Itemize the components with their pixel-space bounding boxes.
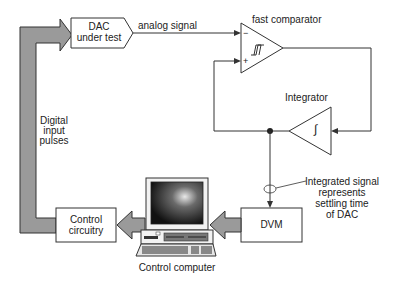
analog-signal-label: analog signal — [138, 20, 197, 31]
annotation-line2: represents — [302, 187, 382, 198]
annotation-line3: settling time — [302, 198, 382, 209]
comparator-plus-sign: + — [243, 56, 248, 67]
computer-icon — [136, 178, 216, 256]
arrowhead-icon — [267, 201, 273, 208]
integrator-triangle — [289, 107, 331, 155]
arrowhead-icon — [234, 30, 241, 36]
comparator-minus-sign: − — [243, 28, 248, 39]
dvm-to-computer-arrow — [210, 211, 241, 239]
annotation-line1: Integrated signal — [302, 176, 382, 187]
annotation-line4: of DAC — [302, 209, 382, 220]
control-circuitry-line1: Control — [56, 214, 116, 225]
dac-label-line2: under test — [71, 32, 127, 43]
arrowhead-icon — [234, 58, 241, 64]
control-circuitry-line2: circuitry — [56, 225, 116, 236]
digital-label-line3: pulses — [38, 135, 70, 146]
integrator-label: Integrator — [285, 92, 328, 103]
computer-label: Control computer — [130, 262, 224, 273]
dac-label-line1: DAC — [71, 21, 127, 32]
arrowhead-icon — [331, 128, 338, 134]
comparator-label: fast comparator — [252, 14, 321, 25]
dvm-label: DVM — [241, 219, 302, 230]
integral-symbol-icon: ∫ — [314, 124, 317, 135]
